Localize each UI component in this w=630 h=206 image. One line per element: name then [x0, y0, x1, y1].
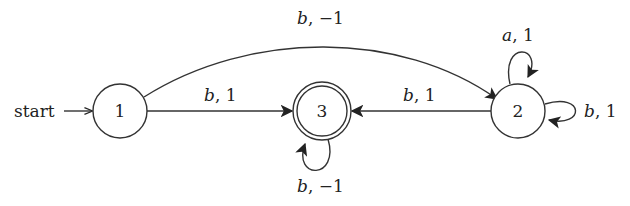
- start-label: start: [14, 101, 55, 121]
- self-loop-3-bottom: b, −1: [297, 139, 344, 196]
- edge-2-to-3: b, 1: [352, 85, 491, 111]
- state-1-label: 1: [115, 101, 126, 121]
- edge-1-to-3: b, 1: [147, 85, 292, 111]
- edge-2-3-label: b, 1: [403, 85, 436, 105]
- loop-3-bottom-label: b, −1: [297, 176, 344, 196]
- loop-2-top-path: [509, 52, 532, 84]
- self-loop-2-right: b, 1: [545, 101, 617, 121]
- state-diagram: start b, −1 b, 1 b, 1 a, 1 b, 1 b, −1 1 …: [0, 0, 630, 206]
- state-1: 1: [93, 84, 147, 138]
- start-transition: start: [14, 101, 92, 121]
- loop-2-right-path: [545, 102, 576, 122]
- edge-1-2-label: b, −1: [297, 8, 344, 28]
- state-2: 2: [491, 84, 545, 138]
- loop-2-top-label: a, 1: [502, 25, 534, 45]
- state-2-label: 2: [513, 101, 524, 121]
- state-3-accepting: 3: [293, 82, 351, 140]
- self-loop-2-top: a, 1: [502, 25, 534, 84]
- loop-3-bottom-path: [303, 139, 330, 170]
- state-3-label: 3: [317, 101, 328, 121]
- edge-1-3-label: b, 1: [204, 85, 237, 105]
- loop-2-right-label: b, 1: [584, 101, 617, 121]
